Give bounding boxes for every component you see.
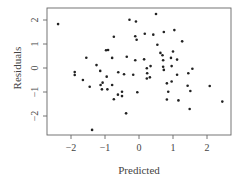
data-point [107,49,110,52]
data-point [170,57,173,60]
data-point [135,38,138,41]
scatter-chart: −2−1012 −2−1012 Predicted Residuals [0,0,243,183]
data-point [167,90,170,93]
y-tick-label: −2 [29,111,40,122]
data-point [170,65,173,68]
data-points [57,13,224,132]
y-tick-label: 2 [29,18,40,23]
data-point [73,71,76,74]
data-point [146,72,149,75]
data-point [208,85,211,88]
data-point [170,80,173,83]
data-point [152,33,155,36]
data-point [88,85,91,88]
y-tick-label: 0 [29,66,40,71]
data-point [105,75,108,78]
data-point [176,73,179,76]
data-point [161,54,164,57]
data-point [57,23,60,26]
data-point [173,29,176,32]
data-point [111,84,114,87]
x-tick-label: 0 [137,142,142,153]
data-point [111,57,114,60]
data-point [181,40,184,43]
data-point [149,65,152,68]
data-point [146,77,149,80]
data-point [162,59,165,62]
x-axis: −2−1012 [66,135,210,153]
data-point [117,93,120,96]
data-point [163,69,166,72]
data-point [143,58,146,61]
data-point [113,98,116,101]
data-point [134,35,137,38]
data-point [187,72,190,75]
y-axis: −2−1012 [29,18,47,122]
data-point [106,88,109,91]
x-axis-title: Predicted [118,164,160,176]
data-point [172,50,175,53]
x-tick-label: −1 [100,142,111,153]
data-point [82,79,85,82]
data-point [221,100,224,103]
data-point [166,98,169,101]
data-point [113,36,116,39]
data-point [155,13,158,16]
data-point [73,74,76,77]
data-point [117,71,120,74]
data-point [166,82,169,85]
data-point [121,90,124,93]
data-point [146,67,149,70]
x-tick-label: −2 [66,142,77,153]
data-point [188,108,191,111]
data-point [101,81,104,84]
data-point [99,84,102,87]
data-point [85,56,88,59]
data-point [186,84,189,87]
y-tick-label: 1 [29,42,40,47]
data-point [159,52,162,55]
data-point [189,90,192,93]
data-point [91,129,94,132]
data-point [177,99,180,102]
data-point [191,67,194,70]
data-point [99,70,102,73]
x-tick-label: 1 [171,142,176,153]
data-point [143,32,146,35]
data-point [163,31,166,34]
data-point [134,59,137,62]
y-tick-label: −1 [29,87,40,98]
data-point [132,73,135,76]
data-point [95,64,98,67]
data-point [162,66,165,69]
data-point [123,73,126,76]
data-point [128,18,131,21]
data-point [125,112,128,115]
data-point [176,58,179,61]
data-point [156,43,159,46]
data-point [149,76,152,79]
data-point [135,20,138,23]
data-point [125,55,128,58]
y-axis-title: Residuals [11,47,23,90]
data-point [136,91,139,94]
data-point [101,88,104,91]
data-point [121,95,124,98]
x-tick-label: 2 [205,142,210,153]
